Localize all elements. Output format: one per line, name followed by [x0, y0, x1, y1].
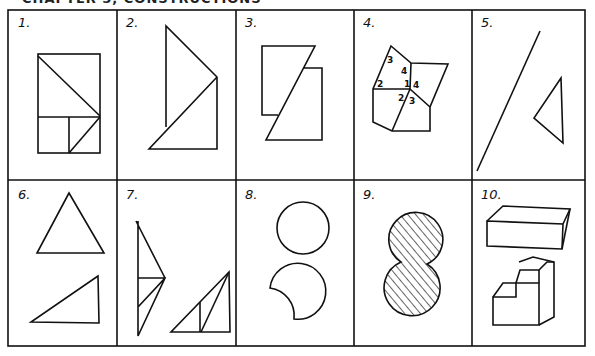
angle-number: 1	[404, 79, 410, 89]
figure-7	[136, 221, 230, 336]
figure-6	[31, 193, 104, 323]
figure-10	[487, 206, 570, 325]
angle-number: 2	[377, 79, 383, 89]
figure-3	[262, 46, 322, 140]
figure-9	[384, 212, 443, 315]
angle-number: 3	[409, 96, 415, 106]
angle-number: 4	[413, 80, 419, 90]
puzzle-grid: 1. 2. 3. 4. 5. 6. 7. 8. 9. 10. 3 4 2 1 4…	[0, 0, 595, 356]
panel-label-6: 6.	[18, 187, 30, 202]
panel-label-5: 5.	[481, 15, 493, 30]
panel-label-9: 9.	[363, 187, 375, 202]
panel-label-2: 2.	[126, 15, 138, 30]
panel-label-3: 3.	[245, 15, 257, 30]
angle-number: 2	[398, 93, 404, 103]
figure-5	[477, 31, 563, 171]
panel-label-1: 1.	[18, 15, 30, 30]
figure-2	[149, 26, 217, 149]
panel-label-7: 7.	[126, 187, 138, 202]
panel-label-10: 10.	[481, 187, 502, 202]
grid-frame	[8, 10, 585, 346]
figure-8	[270, 202, 329, 319]
angle-number: 4	[401, 66, 407, 76]
figure-1	[38, 54, 100, 153]
figure-4	[373, 46, 448, 131]
angle-number: 3	[387, 55, 393, 65]
panel-label-8: 8.	[245, 187, 257, 202]
panel-label-4: 4.	[363, 15, 375, 30]
